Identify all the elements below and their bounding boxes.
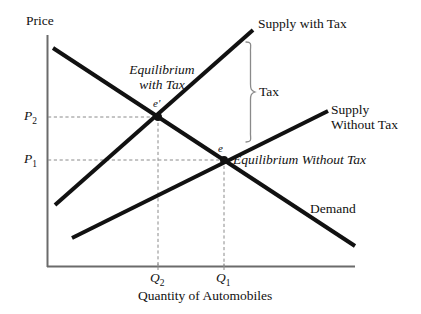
y-tick-label-p2-sub: 2	[32, 116, 37, 126]
y-tick-label-p1: P1	[24, 151, 37, 169]
y-axis-title: Price	[26, 13, 54, 28]
x-tick-label-q2-text: Q	[150, 270, 160, 285]
tax-bracket-label: Tax	[259, 84, 279, 99]
x-tick-label-q1-text: Q	[216, 270, 226, 285]
tax-brace	[246, 42, 255, 142]
equilibrium-point-label-e: e	[218, 142, 223, 154]
equilibrium-point-label-e-prime: e'	[153, 97, 160, 109]
x-tick-label-q2: Q2	[150, 270, 165, 288]
y-tick-label-p2: P2	[24, 108, 37, 126]
equilibrium-with-tax-line2: with Tax	[119, 77, 205, 92]
figure-canvas: Price Quantity of Automobiles P2 P1 Q2 Q…	[0, 0, 421, 314]
supply-without-tax-label: Supply Without Tax	[331, 102, 398, 132]
x-tick-label-q2-sub: 2	[160, 278, 165, 288]
equilibrium-with-tax-annotation: Equilibrium with Tax	[119, 62, 205, 92]
equilibrium-point-e-prime	[154, 113, 162, 121]
equilibrium-point-e	[220, 156, 228, 164]
y-tick-label-p1-sub: 1	[32, 159, 37, 169]
equilibrium-with-tax-line1: Equilibrium	[119, 62, 205, 77]
x-tick-label-q1: Q1	[216, 270, 231, 288]
equilibrium-without-tax-annotation: Equilibrium Without Tax	[233, 152, 366, 167]
supply-with-tax-label: Supply with Tax	[258, 16, 347, 31]
supply-without-tax-label-line2: Without Tax	[331, 117, 398, 132]
y-tick-label-p2-text: P	[24, 108, 32, 123]
y-tick-label-p1-text: P	[24, 151, 32, 166]
x-axis-title: Quantity of Automobiles	[138, 288, 272, 303]
demand-label: Demand	[310, 201, 356, 216]
supply-without-tax-label-line1: Supply	[331, 102, 398, 117]
supply-without-tax-curve	[72, 111, 328, 238]
x-tick-label-q1-sub: 1	[226, 278, 231, 288]
